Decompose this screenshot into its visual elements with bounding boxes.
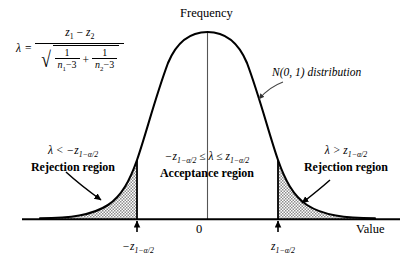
formula-n2-tail: −3 [104,59,115,70]
distribution-label: N(0, 1) distribution [272,66,361,79]
x-tick-label-left-critical: −z1−α/2 [103,240,173,256]
left-rejection-region-name: Rejection region [14,161,132,174]
formula-term2: 1 n2−3 [92,47,117,73]
distribution-label-text: N(0, 1) distribution [272,66,361,78]
formula-term1-denominator: n1−3 [55,59,80,73]
formula-n1-tail: −3 [66,59,77,70]
formula-numerator: z1 − z2 [35,26,124,44]
radical-icon: √ [42,49,52,71]
left-rejection-condition-sub: 1−α/2 [79,150,98,159]
x-tick-label-right-critical: z1−α/2 [248,240,318,256]
acceptance-condition-upper-sub: 1−α/2 [230,156,249,165]
left-rejection-condition-main: λ < −z [48,144,79,156]
x-axis-title: Value [356,222,384,236]
acceptance-condition-lower-sub: 1−α/2 [177,156,196,165]
left-rejection-condition: λ < −z1−α/2 [14,144,132,160]
x-tick-label-zero: 0 [196,222,202,236]
x-tick-left-main: −z [122,240,134,252]
formula-denominator: √ 1 n1−3 + 1 n2−3 [35,44,124,73]
right-rejection-region-name: Rejection region [287,161,405,174]
right-rejection-condition-sub: 1−α/2 [348,150,367,159]
acceptance-region-annotation: −z1−α/2 ≤ λ ≤ z1−α/2 Acceptance region [131,150,283,180]
right-rejection-condition: λ > z1−α/2 [287,144,405,160]
formula-term2-numerator: 1 [92,47,117,59]
formula-fraction: z1 − z2 √ 1 n1−3 + 1 n2−3 [35,26,124,73]
x-tick-right-sub: 1−α/2 [276,246,295,255]
formula-term1: 1 n1−3 [55,47,80,73]
right-rejection-condition-main: λ > z [325,144,348,156]
right-rejection-region-annotation: λ > z1−α/2 Rejection region [287,144,405,174]
left-rejection-region-annotation: λ < −z1−α/2 Rejection region [14,144,132,174]
distribution-callout-arrow [259,82,283,99]
formula-minus: − [74,26,86,38]
y-axis-title: Frequency [0,6,413,20]
formula-term2-denominator: n2−3 [92,59,117,73]
acceptance-condition: −z1−α/2 ≤ λ ≤ z1−α/2 [131,150,283,166]
acceptance-condition-lower: −z [165,150,177,162]
acceptance-region-name: Acceptance region [131,167,283,180]
x-tick-left-sub: 1−α/2 [134,246,153,255]
formula-equals: = [21,42,36,54]
formula-z2-sub: 2 [90,32,94,41]
acceptance-condition-middle: ≤ λ ≤ z [196,150,230,162]
figure-container: Frequency Value N(0, 1) distribution λ <… [0,0,413,266]
lambda-formula: λ= z1 − z2 √ 1 n1−3 + 1 [16,26,124,73]
left-rejection-callout-arrow [66,172,101,200]
formula-plus: + [80,54,93,66]
right-rejection-callout-arrow [302,180,330,203]
formula-radicand: 1 n1−3 + 1 n2−3 [53,45,120,73]
formula-term1-numerator: 1 [55,47,80,59]
formula-sqrt-group: √ 1 n1−3 + 1 n2−3 [40,45,119,73]
